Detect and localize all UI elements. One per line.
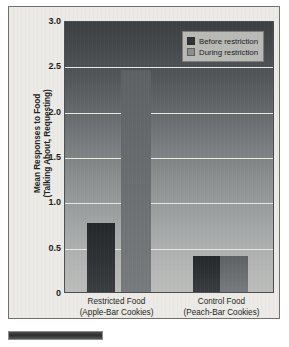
bar-restricted-during <box>121 70 151 292</box>
y-tick-label-0: 0 <box>31 288 61 298</box>
x-axis-labels: Restricted Food (Apple-Bar Cookies) Cont… <box>64 296 274 324</box>
legend-item-before-restriction: Before restriction <box>187 36 258 46</box>
bar-restricted-before <box>87 223 115 292</box>
y-tick-label-1.0: 1.0 <box>31 197 61 207</box>
scan-artifact-bar <box>8 331 103 340</box>
legend-label-before: Before restriction <box>199 37 258 46</box>
y-tick-label-0.5: 0.5 <box>31 243 61 253</box>
x-label-restricted-line-2: (Apple-Bar Cookies) <box>64 307 169 318</box>
legend-label-during: During restriction <box>199 48 258 57</box>
x-label-restricted-line-1: Restricted Food <box>64 296 169 307</box>
gridline-2.0 <box>65 113 273 114</box>
plot-area: Before restriction During restriction <box>64 21 274 293</box>
legend-swatch-during-icon <box>187 48 195 56</box>
gridline-2.5 <box>65 67 273 68</box>
x-label-control-line-1: Control Food <box>169 296 274 307</box>
bar-control-before <box>193 256 220 292</box>
legend-item-during-restriction: During restriction <box>187 47 258 57</box>
x-axis-label-restricted-food: Restricted Food (Apple-Bar Cookies) <box>64 296 169 324</box>
y-tick-label-1.5: 1.5 <box>31 152 61 162</box>
y-tick-label-2.0: 2.0 <box>31 107 61 117</box>
y-tick-label-2.5: 2.5 <box>31 61 61 71</box>
legend-swatch-before-icon <box>187 37 195 45</box>
chart-legend: Before restriction During restriction <box>182 31 264 62</box>
x-axis-label-control-food: Control Food (Peach-Bar Cookies) <box>169 296 274 324</box>
gridline-1.0 <box>65 203 273 204</box>
bar-control-during <box>220 256 248 292</box>
x-label-control-line-2: (Peach-Bar Cookies) <box>169 307 274 318</box>
y-axis-tick-labels: 3.0 2.5 2.0 1.5 1.0 0.5 0 <box>31 21 61 293</box>
figure-frame: Mean Responses to Food (Talking About, R… <box>8 6 280 319</box>
y-tick-label-3.0: 3.0 <box>31 16 61 26</box>
gridline-1.5 <box>65 158 273 159</box>
